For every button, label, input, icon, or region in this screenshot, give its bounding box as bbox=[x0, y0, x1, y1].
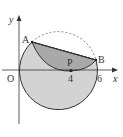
origin-label: O bbox=[7, 73, 14, 84]
point-b-label: B bbox=[98, 54, 105, 65]
point-p-dot bbox=[69, 69, 72, 72]
x-tick-4: 4 bbox=[68, 73, 73, 84]
x-tick-6: 6 bbox=[97, 73, 102, 84]
y-axis-label: y bbox=[8, 14, 14, 25]
point-p-label: P bbox=[67, 57, 73, 68]
diagram-canvas: y x O A B P 4 6 bbox=[0, 0, 123, 137]
point-a-label: A bbox=[22, 34, 30, 45]
geometry-figure: y x O A B P 4 6 bbox=[0, 0, 123, 137]
point-b-dot bbox=[95, 59, 97, 61]
x-axis-arrow-icon bbox=[112, 68, 118, 73]
x-axis-label: x bbox=[112, 73, 118, 84]
point-a-dot bbox=[31, 41, 33, 43]
y-axis-arrow-icon bbox=[17, 15, 22, 21]
